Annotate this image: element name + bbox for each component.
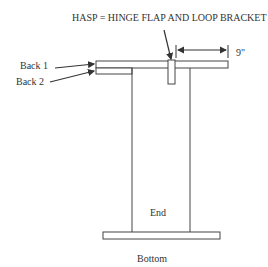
label-bottom: Bottom (137, 254, 167, 264)
label-end: End (150, 208, 166, 218)
label-back-1: Back 1 (20, 61, 48, 71)
label-back-2: Back 2 (16, 77, 44, 87)
furniture-diagram (0, 0, 268, 267)
diagram-title: HASP = HINGE FLAP AND LOOP BRACKET (72, 13, 267, 23)
bottom-panel (103, 232, 220, 239)
label-dimension: 9" (236, 48, 245, 58)
back-2-panel (96, 68, 132, 74)
back-1-arrow (55, 64, 94, 68)
hasp-arrow (164, 30, 171, 59)
back-2-arrow (50, 71, 94, 82)
hasp-bracket (168, 60, 175, 84)
back-1-panel (96, 61, 228, 68)
